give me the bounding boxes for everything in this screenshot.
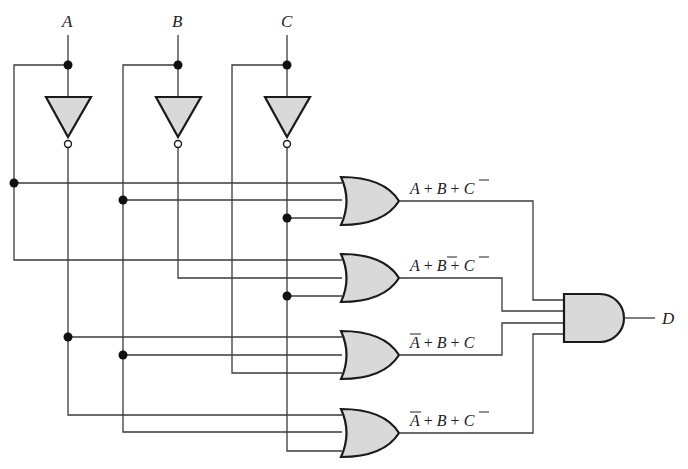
- inverter-bubble: [65, 141, 72, 148]
- or3-expression: A + B + C: [409, 334, 475, 351]
- or4-expression: A + B + C: [409, 412, 489, 429]
- svg-text:A + B + C: A + B + C: [409, 180, 475, 197]
- input-a-network: [10, 35, 343, 415]
- input-label-a: A: [61, 12, 73, 31]
- or-gate-4: [341, 409, 399, 457]
- or1-expression: A + B + C: [409, 180, 489, 197]
- junction-dot: [283, 61, 292, 70]
- or-gate-1: [341, 177, 399, 225]
- svg-text:A + B + C: A + B + C: [409, 412, 475, 429]
- input-c-network: [232, 35, 342, 451]
- junction-dot: [119, 196, 128, 205]
- logic-circuit-diagram: A B C: [0, 0, 688, 469]
- or2-expression: A + B + C: [409, 257, 489, 274]
- svg-text:A + B + C: A + B + C: [409, 334, 475, 351]
- svg-text:A + B + C: A + B + C: [409, 257, 475, 274]
- input-label-b: B: [172, 12, 183, 31]
- or2-output-wire: [399, 278, 565, 311]
- inverter-bubble: [284, 141, 291, 148]
- inverter-a: [46, 97, 91, 137]
- junction-dot: [64, 333, 73, 342]
- junction-dot: [174, 61, 183, 70]
- or-gate-2: [341, 254, 399, 302]
- or1-output-wire: [399, 201, 565, 300]
- inverter-c: [265, 97, 310, 137]
- junction-dot: [283, 214, 292, 223]
- inverter-b: [156, 97, 201, 137]
- input-label-c: C: [281, 12, 293, 31]
- or-gate-3: [341, 331, 399, 379]
- inverter-bubble: [175, 141, 182, 148]
- junction-dot: [283, 292, 292, 301]
- and-gate: [564, 294, 624, 342]
- junction-dot: [64, 61, 73, 70]
- junction-dot: [10, 179, 19, 188]
- junction-dot: [119, 351, 128, 360]
- output-label-d: D: [661, 309, 675, 328]
